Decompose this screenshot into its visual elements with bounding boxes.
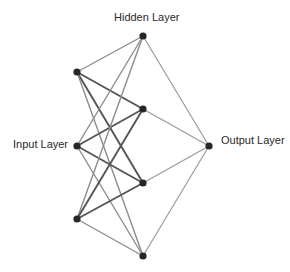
input-node-i1 — [73, 68, 80, 75]
edge-h2-o1 — [143, 109, 209, 146]
edge-h1-o1 — [143, 36, 209, 146]
edge-i1-h1 — [77, 36, 143, 72]
hidden-node-h2 — [139, 105, 146, 112]
output-node-o1 — [205, 142, 212, 149]
neural-network-diagram: Hidden Layer Input Layer Output Layer — [0, 0, 290, 272]
hidden-layer-label: Hidden Layer — [114, 11, 179, 24]
edges-group — [77, 36, 209, 256]
edge-h3-o1 — [143, 146, 209, 183]
hidden-node-h3 — [139, 179, 146, 186]
nodes-group — [73, 32, 212, 259]
edge-i3-h1 — [77, 36, 143, 219]
input-node-i3 — [73, 215, 80, 222]
hidden-node-h1 — [139, 32, 146, 39]
output-layer-label: Output Layer — [221, 134, 285, 147]
edge-i3-h4 — [77, 219, 143, 256]
edge-h4-o1 — [143, 146, 209, 256]
input-layer-label: Input Layer — [13, 138, 68, 151]
hidden-node-h4 — [139, 252, 146, 259]
input-node-i2 — [73, 142, 80, 149]
